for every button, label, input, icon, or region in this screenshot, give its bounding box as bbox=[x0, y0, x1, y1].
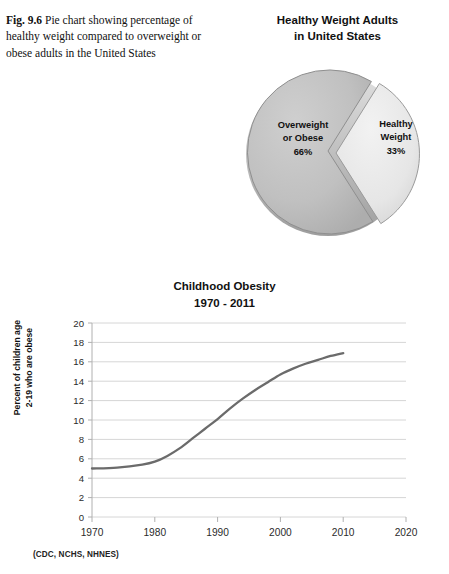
y-tick-label-8: 8 bbox=[79, 434, 84, 445]
y-tick-label-4: 4 bbox=[79, 473, 85, 484]
y-tick-label-18: 18 bbox=[73, 337, 84, 348]
y-tick-label-10: 10 bbox=[73, 415, 84, 426]
pie-chart-title: Healthy Weight Adults in United States bbox=[228, 8, 447, 45]
line-chart-canvas: 02468101214161820 1970198019902000201020… bbox=[0, 312, 449, 537]
line-chart-source-note: (CDC, NCHS, NHNES) bbox=[33, 550, 119, 559]
line-chart-title-line2: 1970 - 2011 bbox=[0, 295, 449, 312]
x-tick-label-1990: 1990 bbox=[206, 527, 229, 537]
x-tick-label-2010: 2010 bbox=[332, 527, 355, 537]
y-tick-label-20: 20 bbox=[73, 318, 84, 329]
y-tick-label-2: 2 bbox=[79, 492, 84, 503]
y-tick-label-14: 14 bbox=[73, 376, 84, 387]
pie-chart-title-line1: Healthy Weight Adults bbox=[228, 13, 447, 29]
pie-label-overweight: Overweight or Obese 66% bbox=[253, 119, 353, 159]
line-chart-x-ticks: 197019801990200020102020 bbox=[81, 517, 418, 537]
y-tick-label-12: 12 bbox=[73, 395, 84, 406]
x-tick-label-1970: 1970 bbox=[81, 527, 104, 537]
pie-label-overweight-line2: or Obese bbox=[253, 132, 353, 145]
x-tick-label-2000: 2000 bbox=[269, 527, 292, 537]
x-tick-label-2020: 2020 bbox=[395, 527, 418, 537]
figure-label: Fig. 9.6 bbox=[6, 14, 42, 26]
y-tick-label-0: 0 bbox=[79, 512, 84, 523]
line-chart-svg: 02468101214161820 1970198019902000201020… bbox=[0, 312, 449, 537]
x-tick-label-1980: 1980 bbox=[143, 527, 166, 537]
y-tick-label-6: 6 bbox=[79, 453, 84, 464]
pie-label-healthy-value: 33% bbox=[361, 145, 431, 158]
pie-chart-title-line2: in United States bbox=[228, 29, 447, 45]
line-chart-title-line1: Childhood Obesity bbox=[0, 278, 449, 295]
pie-label-overweight-line1: Overweight bbox=[253, 119, 353, 132]
line-chart-title: Childhood Obesity 1970 - 2011 bbox=[0, 278, 449, 311]
pie-label-healthy: Healthy Weight 33% bbox=[361, 118, 431, 158]
pie-label-healthy-line2: Weight bbox=[361, 131, 431, 144]
line-chart-series-path bbox=[92, 353, 343, 468]
line-chart-gridlines bbox=[92, 323, 406, 517]
pie-label-healthy-line1: Healthy bbox=[361, 118, 431, 131]
pie-chart-canvas: Overweight or Obese 66% Healthy Weight 3… bbox=[228, 56, 447, 246]
line-chart-y-ticks: 02468101214161820 bbox=[73, 318, 92, 523]
figure-caption: Fig. 9.6 Pie chart showing percentage of… bbox=[6, 12, 211, 61]
line-chart-figure: Childhood Obesity 1970 - 2011 Percent of… bbox=[0, 278, 449, 574]
y-tick-label-16: 16 bbox=[73, 356, 84, 367]
pie-chart-figure: Healthy Weight Adults in United States bbox=[228, 8, 447, 248]
pie-label-overweight-value: 66% bbox=[253, 146, 353, 159]
